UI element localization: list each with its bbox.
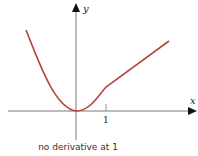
x-tick-label-1: 1 [103, 115, 109, 125]
y-axis-arrow-icon [72, 3, 80, 12]
y-axis-label: y [82, 3, 89, 14]
figure-canvas: y x 1 [0, 0, 198, 156]
function-curve [26, 30, 169, 111]
x-axis-label: x [190, 95, 196, 106]
x-axis-arrow-icon [188, 107, 197, 115]
figure-caption: no derivative at 1 [0, 142, 156, 152]
